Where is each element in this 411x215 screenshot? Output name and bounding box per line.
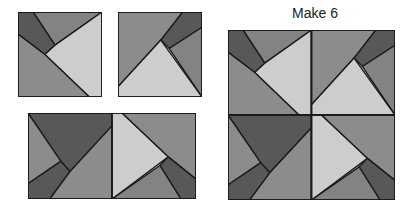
unit-block-a — [18, 12, 102, 97]
make-6-label: Make 6 — [270, 5, 360, 21]
block-a — [18, 12, 102, 97]
block-c — [28, 113, 112, 199]
block-b — [118, 12, 202, 97]
unit-pair — [28, 113, 196, 199]
block-b — [312, 30, 396, 115]
block-d — [312, 115, 396, 200]
unit-block-b — [118, 12, 202, 97]
block-d — [112, 113, 196, 199]
block-c — [228, 115, 312, 200]
block-a — [228, 30, 312, 115]
finished-block — [228, 30, 395, 200]
